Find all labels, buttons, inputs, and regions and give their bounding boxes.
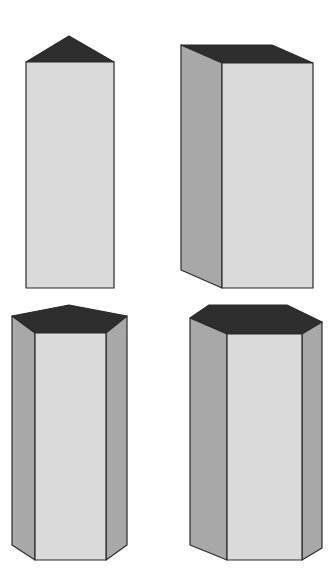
- pentagonal-prism: [12, 305, 127, 560]
- right-face: [302, 322, 322, 560]
- top-face: [26, 36, 114, 62]
- right-face: [106, 316, 127, 560]
- triangular-prism: [26, 36, 114, 288]
- left-face: [190, 318, 227, 560]
- front-face: [222, 63, 313, 288]
- front-face: [35, 333, 106, 560]
- front-face: [26, 62, 114, 288]
- rectangular-prism: [181, 45, 313, 288]
- hexagonal-prism: [190, 305, 322, 560]
- side-face: [181, 45, 222, 288]
- front-face: [227, 334, 302, 560]
- left-face: [12, 316, 35, 560]
- prisms-diagram: [0, 0, 336, 581]
